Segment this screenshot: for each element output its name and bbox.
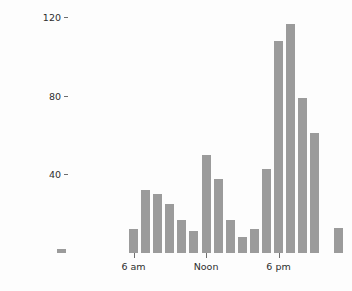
bar bbox=[177, 220, 186, 253]
bar bbox=[286, 24, 295, 253]
bar bbox=[310, 133, 319, 253]
bar bbox=[129, 229, 138, 253]
x-axis: 6 amNoon6 pm bbox=[55, 253, 345, 291]
bar bbox=[214, 179, 223, 253]
bar bbox=[153, 194, 162, 253]
x-axis-tick-label: Noon bbox=[194, 261, 219, 272]
bar bbox=[250, 229, 259, 253]
bar bbox=[189, 231, 198, 253]
x-axis-tick-mark bbox=[279, 253, 280, 258]
bar bbox=[238, 237, 247, 253]
plot-area bbox=[55, 8, 345, 253]
bar bbox=[165, 204, 174, 253]
x-axis-tick-label: 6 pm bbox=[266, 261, 290, 272]
bar bbox=[202, 155, 211, 253]
bar-chart: Frequency 4080120 6 amNoon6 pm bbox=[0, 0, 352, 291]
bar bbox=[334, 228, 343, 253]
bar bbox=[298, 98, 307, 253]
x-axis-tick-mark bbox=[206, 253, 207, 258]
bar bbox=[262, 169, 271, 253]
x-axis-tick-label: 6 am bbox=[121, 261, 145, 272]
bar bbox=[141, 190, 150, 253]
bar bbox=[274, 41, 283, 253]
x-axis-tick-mark bbox=[134, 253, 135, 258]
bar bbox=[226, 220, 235, 253]
